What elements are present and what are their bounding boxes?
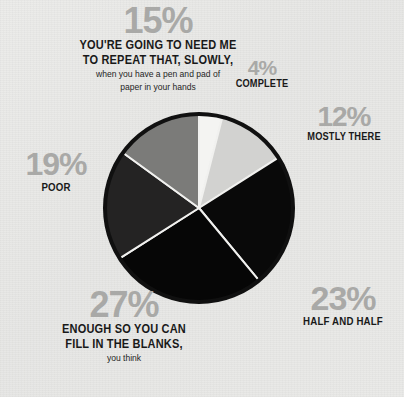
callout-percent-mostly-there: 12% [286, 104, 402, 130]
callout-caption-need-me-line2: TO REPEAT THAT, SLOWLY, [79, 53, 237, 67]
callout-percent-poor: 19% [8, 150, 104, 179]
callout-caption-mostly-there: MOSTLY THERE [293, 131, 395, 143]
callout-percent-half-and-half: 23% [284, 283, 402, 314]
callout-caption-half-and-half: HALF AND HALF [291, 315, 395, 327]
callout-caption-need-me-line1: YOU'RE GOING TO NEED ME [79, 38, 237, 52]
callout-mostly-there: 12% MOSTLY THERE [286, 104, 402, 143]
callout-sub-need-me-line1: when you have a pen and pad of [77, 69, 239, 80]
callout-caption-complete: COMPLETE [223, 78, 300, 90]
callout-sub-enough: you think [43, 353, 205, 364]
callout-percent-need-me: 15% [68, 4, 248, 37]
callout-sub-need-me-line2: paper in your hands [77, 82, 239, 93]
callout-caption-poor: POOR [14, 181, 98, 193]
callout-complete: 4% COMPLETE [218, 58, 306, 90]
callout-caption-enough-line2: FILL IN THE BLANKS, [45, 337, 203, 351]
callout-half-and-half: 23% HALF AND HALF [284, 283, 402, 328]
callout-poor: 19% POOR [8, 150, 104, 194]
callout-percent-complete: 4% [218, 58, 306, 77]
callout-enough: 27% ENOUGH SO YOU CAN FILL IN THE BLANKS… [34, 288, 214, 364]
callout-caption-enough-line1: ENOUGH SO YOU CAN [45, 322, 203, 336]
callout-percent-enough: 27% [34, 288, 214, 321]
